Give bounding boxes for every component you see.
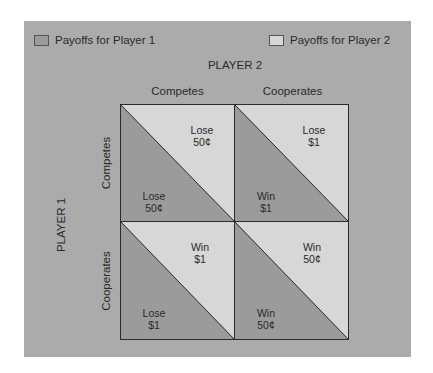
payoff-matrix-panel: Payoffs for Player 1 Payoffs for Player … — [24, 21, 411, 357]
player1-payoff: Win 50¢ — [246, 307, 286, 331]
cell-cooperate-compete: Win $1 Lose $1 — [120, 221, 235, 339]
payoff-amount: 50¢ — [246, 319, 286, 331]
payoff-outcome: Win — [246, 307, 286, 319]
cell-cooperate-cooperate: Win 50¢ Win 50¢ — [234, 221, 349, 339]
player2-swatch-icon — [269, 35, 284, 46]
cell-compete-compete: Lose 50¢ Lose 50¢ — [120, 104, 235, 222]
payoff-amount: 50¢ — [292, 253, 332, 265]
player1-strategy-cooperates: Cooperates — [100, 222, 112, 340]
payoff-outcome: Lose — [294, 124, 334, 136]
legend-player2-label: Payoffs for Player 2 — [290, 34, 390, 46]
payoff-outcome: Lose — [134, 307, 174, 319]
player2-strategy-cooperates: Cooperates — [235, 85, 350, 97]
payoff-amount: $1 — [246, 202, 286, 214]
player1-title: PLAYER 1 — [55, 185, 67, 265]
player1-swatch-icon — [34, 35, 49, 46]
player2-payoff: Lose $1 — [294, 124, 334, 148]
player2-payoff: Lose 50¢ — [182, 124, 222, 148]
payoff-outcome: Lose — [134, 190, 174, 202]
player2-payoff: Win $1 — [180, 241, 220, 265]
player1-payoff: Lose 50¢ — [134, 190, 174, 214]
player1-strategy-competes: Competes — [100, 104, 112, 222]
payoff-outcome: Win — [180, 241, 220, 253]
player2-strategy-competes: Competes — [120, 85, 235, 97]
legend-player2: Payoffs for Player 2 — [269, 34, 390, 46]
player1-payoff: Win $1 — [246, 190, 286, 214]
player2-title: PLAYER 2 — [24, 59, 411, 71]
payoff-outcome: Win — [246, 190, 286, 202]
payoff-amount: $1 — [180, 253, 220, 265]
payoff-amount: $1 — [134, 319, 174, 331]
payoff-amount: $1 — [294, 136, 334, 148]
payoff-amount: 50¢ — [182, 136, 222, 148]
player1-payoff: Lose $1 — [134, 307, 174, 331]
player2-payoff: Win 50¢ — [292, 241, 332, 265]
legend-player1-label: Payoffs for Player 1 — [55, 34, 155, 46]
cell-compete-cooperate: Lose $1 Win $1 — [234, 104, 349, 222]
payoff-grid: Lose 50¢ Lose 50¢ Lose $1 Win $1 — [120, 104, 349, 340]
payoff-outcome: Win — [292, 241, 332, 253]
payoff-amount: 50¢ — [134, 202, 174, 214]
legend-player1: Payoffs for Player 1 — [34, 34, 155, 46]
payoff-outcome: Lose — [182, 124, 222, 136]
